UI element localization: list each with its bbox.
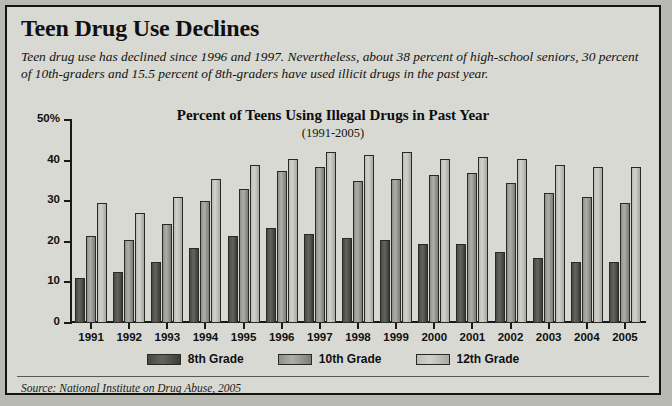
y-axis-tick bbox=[64, 281, 72, 283]
x-axis-tick bbox=[510, 323, 512, 329]
x-axis-tick bbox=[586, 323, 588, 329]
y-axis-label: 10 bbox=[27, 274, 60, 286]
legend-label: 10th Grade bbox=[319, 352, 382, 366]
chart-panel: Teen Drug Use Declines Teen drug use has… bbox=[5, 5, 661, 395]
page-deck: Teen drug use has declined since 1996 an… bbox=[21, 48, 649, 82]
y-axis-label: 20 bbox=[27, 234, 60, 246]
bar-g8 bbox=[495, 252, 505, 323]
bar-g10 bbox=[582, 197, 592, 323]
x-axis-tick bbox=[433, 323, 435, 329]
x-axis-label: 1992 bbox=[110, 331, 148, 343]
bar-g8 bbox=[228, 236, 238, 323]
bar-group bbox=[491, 120, 529, 323]
bar-g10 bbox=[506, 183, 516, 323]
y-axis-label: 0 bbox=[27, 315, 60, 327]
bar-g8 bbox=[418, 244, 428, 323]
bar-g12 bbox=[97, 203, 107, 323]
y-axis-tick bbox=[64, 119, 72, 121]
x-axis-tick bbox=[204, 323, 206, 329]
bar-g12 bbox=[364, 155, 374, 323]
source-divider bbox=[17, 376, 649, 377]
source-note: Source: National Institute on Drug Abuse… bbox=[21, 382, 241, 394]
chart-legend: 8th Grade10th Grade12th Grade bbox=[7, 352, 659, 366]
bar-g8 bbox=[266, 228, 276, 323]
legend-label: 8th Grade bbox=[188, 352, 244, 366]
bar-group bbox=[530, 120, 568, 323]
x-axis-label: 2000 bbox=[415, 331, 453, 343]
x-axis-label: 1995 bbox=[225, 331, 263, 343]
x-axis-label: 2003 bbox=[530, 331, 568, 343]
legend-swatch-g8 bbox=[147, 354, 181, 365]
bar-g10 bbox=[277, 171, 287, 323]
bar-g12 bbox=[211, 179, 221, 323]
bar-g8 bbox=[151, 262, 161, 323]
legend-item: 10th Grade bbox=[278, 352, 382, 366]
bar-g8 bbox=[75, 278, 85, 323]
bar-g10 bbox=[239, 189, 249, 323]
x-axis-label: 2004 bbox=[568, 331, 606, 343]
bar-g8 bbox=[380, 240, 390, 323]
legend-item: 12th Grade bbox=[416, 352, 520, 366]
bar-group bbox=[72, 120, 110, 323]
bar-g12 bbox=[135, 213, 145, 323]
bar-g10 bbox=[124, 240, 134, 323]
bar-g12 bbox=[288, 159, 298, 323]
bar-group bbox=[453, 120, 491, 323]
bar-g12 bbox=[402, 152, 412, 323]
x-axis-tick bbox=[471, 323, 473, 329]
bar-g10 bbox=[391, 179, 401, 323]
bar-g12 bbox=[250, 165, 260, 323]
x-axis-label: 2002 bbox=[491, 331, 529, 343]
bar-g8 bbox=[571, 262, 581, 323]
bar-group bbox=[301, 120, 339, 323]
bar-g10 bbox=[467, 173, 477, 323]
x-axis-tick bbox=[395, 323, 397, 329]
bar-group bbox=[377, 120, 415, 323]
x-axis-tick bbox=[166, 323, 168, 329]
bar-g12 bbox=[593, 167, 603, 323]
bar-g12 bbox=[440, 159, 450, 323]
x-axis-label: 2001 bbox=[453, 331, 491, 343]
chart-plot: 01020304050% 199119921993199419951996199… bbox=[27, 117, 647, 347]
bar-g10 bbox=[200, 201, 210, 323]
bar-g12 bbox=[631, 167, 641, 323]
x-axis-tick bbox=[281, 323, 283, 329]
bar-g10 bbox=[315, 167, 325, 323]
bar-group bbox=[148, 120, 186, 323]
y-axis-label: 30 bbox=[27, 193, 60, 205]
page-title: Teen Drug Use Declines bbox=[21, 15, 259, 42]
x-axis-label: 1999 bbox=[377, 331, 415, 343]
bars-container bbox=[72, 120, 644, 323]
bar-g8 bbox=[189, 248, 199, 323]
bar-g12 bbox=[555, 165, 565, 323]
bar-group bbox=[110, 120, 148, 323]
bar-g12 bbox=[517, 159, 527, 323]
legend-swatch-g12 bbox=[416, 354, 450, 365]
x-axis-label: 1993 bbox=[148, 331, 186, 343]
x-axis-label: 1991 bbox=[72, 331, 110, 343]
bar-group bbox=[606, 120, 644, 323]
bar-g10 bbox=[86, 236, 96, 323]
legend-swatch-g10 bbox=[278, 354, 312, 365]
y-axis-tick bbox=[64, 160, 72, 162]
bar-g12 bbox=[478, 157, 488, 323]
x-axis-tick bbox=[548, 323, 550, 329]
bar-g12 bbox=[326, 152, 336, 323]
bar-group bbox=[415, 120, 453, 323]
bar-group bbox=[186, 120, 224, 323]
x-axis-tick bbox=[90, 323, 92, 329]
x-axis-tick bbox=[357, 323, 359, 329]
x-axis-label: 1994 bbox=[186, 331, 224, 343]
x-axis-label: 1998 bbox=[339, 331, 377, 343]
y-axis-label: 50% bbox=[27, 112, 60, 124]
y-axis-label: 40 bbox=[27, 153, 60, 165]
bar-g8 bbox=[609, 262, 619, 323]
x-axis-label: 2005 bbox=[606, 331, 644, 343]
x-axis-tick bbox=[624, 323, 626, 329]
bar-g10 bbox=[620, 203, 630, 323]
x-axis-tick bbox=[243, 323, 245, 329]
legend-item: 8th Grade bbox=[147, 352, 244, 366]
bar-g8 bbox=[113, 272, 123, 323]
bar-g8 bbox=[304, 234, 314, 323]
bar-g8 bbox=[342, 238, 352, 323]
